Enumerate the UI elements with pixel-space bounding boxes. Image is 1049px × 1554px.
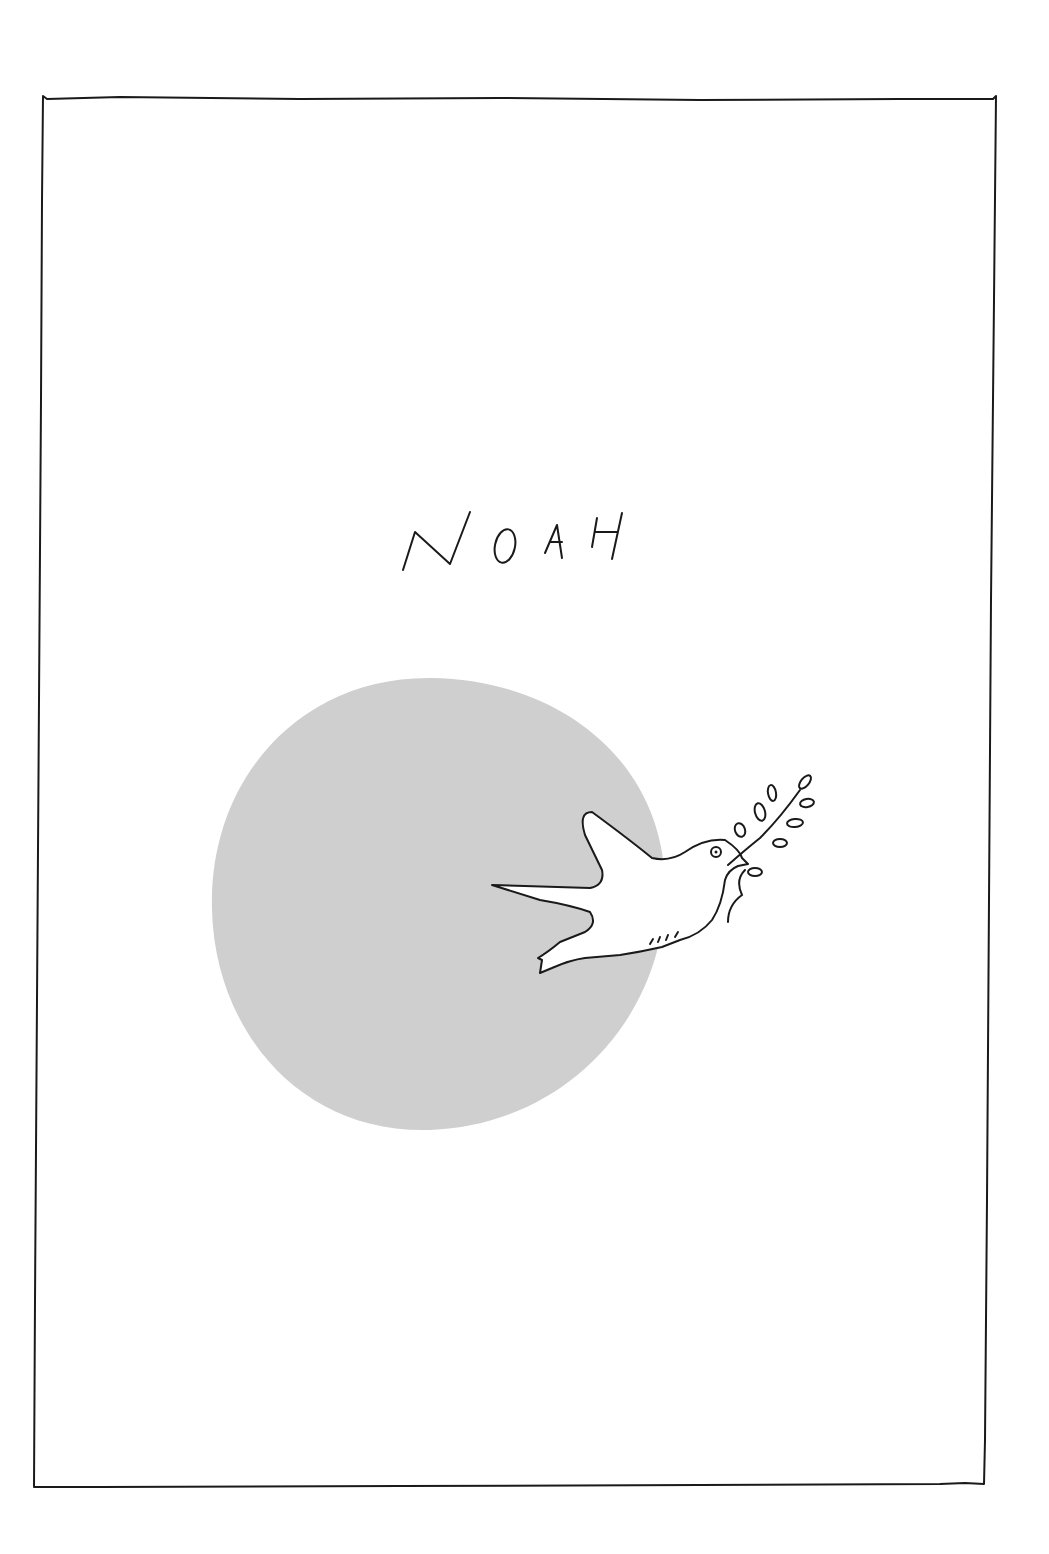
illustration-page: NOAH (0, 0, 1049, 1554)
title-noah (403, 512, 622, 570)
illustration-canvas (0, 0, 1049, 1554)
olive-branch-icon (728, 773, 815, 922)
